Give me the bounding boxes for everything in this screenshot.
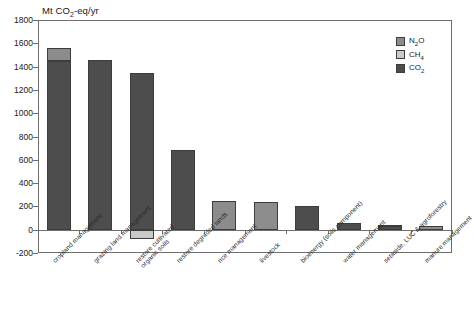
- legend-swatch: [396, 37, 405, 46]
- legend: N2OCH4CO2: [396, 36, 424, 74]
- x-axis-category-label-line: livestock: [258, 241, 281, 264]
- x-axis-category-label-line: rice management: [216, 222, 258, 264]
- legend-label: CO2: [409, 63, 424, 74]
- x-axis-category-label: manure management: [423, 214, 473, 264]
- x-axis-category-label: restore cultivatedorganic soils: [134, 223, 180, 269]
- legend-item[interactable]: N2O: [396, 36, 424, 47]
- legend-label: N2O: [409, 36, 424, 47]
- x-axis-category-label-line: manure management: [423, 214, 473, 264]
- x-axis-category-label: rice management: [216, 222, 258, 264]
- legend-item[interactable]: CO2: [396, 63, 424, 74]
- legend-label: CH4: [409, 50, 424, 61]
- legend-swatch: [396, 64, 405, 73]
- x-axis-category-label: water management: [341, 219, 386, 264]
- legend-item[interactable]: CH4: [396, 50, 424, 61]
- x-axis-category-label: livestock: [258, 241, 281, 264]
- x-axis-category-label-line: water management: [341, 219, 386, 264]
- chart-figure: Mt CO2-eq/yr 180016001400120010008006004…: [0, 0, 474, 323]
- legend-swatch: [396, 50, 405, 59]
